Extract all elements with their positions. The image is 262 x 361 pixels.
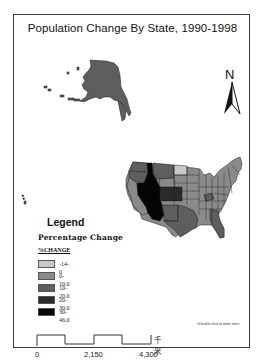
legend-label: 30-46.0 [59, 308, 70, 324]
legend-subtitle: Percentage Change [38, 233, 123, 242]
scale-tick-label: 2,150 [84, 350, 103, 359]
scale-bar[interactable]: 千米 0 2,150 4,300 [36, 333, 156, 361]
hawaii-shape [22, 195, 26, 204]
legend-swatch [38, 272, 55, 280]
alaska-shape [44, 60, 131, 121]
contiguous-us-shape [126, 157, 242, 238]
text-placeholder[interactable]: <Double-click to enter text> [197, 322, 240, 326]
legend-field-name: %CHANGE [38, 247, 70, 253]
legend-swatch [38, 260, 55, 268]
map-layout-frame: Population Change By State, 1990-1998 N [13, 14, 250, 348]
legend-swatch [38, 296, 55, 304]
scale-bar-graphic [36, 333, 156, 347]
legend-swatch [38, 284, 55, 292]
scale-tick-label: 0 [35, 350, 39, 359]
scale-tick-label: 4,300 [139, 350, 158, 359]
legend-title: Legend [47, 216, 84, 228]
legend-swatch [38, 308, 55, 316]
